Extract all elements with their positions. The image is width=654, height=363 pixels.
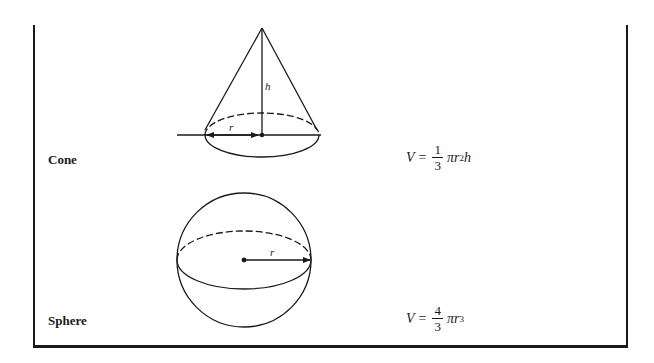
cone-diagram (177, 28, 321, 157)
fraction-numerator: 4 (432, 304, 443, 319)
formula-lhs: V (406, 150, 415, 166)
fraction-denominator: 3 (432, 319, 443, 333)
cone-volume-formula: V = 1 3 π r2 h (406, 143, 471, 172)
sphere-diagram (177, 193, 311, 327)
fraction-numerator: 1 (432, 143, 443, 158)
formula-lhs: V (406, 311, 415, 327)
cone-label: Cone (48, 152, 77, 168)
formula-trailing: h (464, 150, 471, 166)
formula-pi: π (447, 150, 454, 166)
cone-right-slant (262, 28, 317, 130)
formula-fraction: 1 3 (432, 143, 443, 172)
fraction-denominator: 3 (432, 158, 443, 172)
cone-height-label: h (265, 80, 271, 92)
cone-radius-label: r (229, 121, 234, 133)
cone-left-slant (205, 28, 262, 130)
sphere-radius-label: r (270, 246, 275, 258)
formula-equals: = (419, 150, 427, 166)
cone-base-front (205, 135, 319, 157)
formula-equals: = (419, 311, 427, 327)
geometry-diagrams: h r r (0, 0, 654, 363)
formula-fraction: 4 3 (432, 304, 443, 333)
formula-pi: π (447, 311, 454, 327)
sphere-label: Sphere (48, 313, 87, 329)
sphere-volume-formula: V = 4 3 π r3 (406, 304, 464, 333)
sphere-equator-front (177, 260, 311, 289)
sphere-equator-back-dashed (177, 231, 311, 260)
